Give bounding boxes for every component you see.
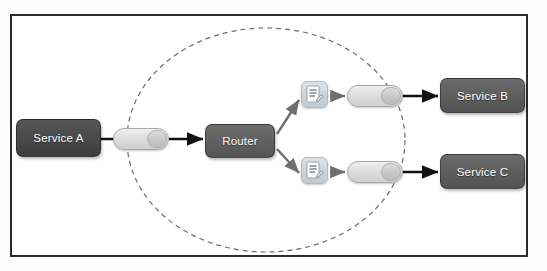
message-queue-top[interactable] (347, 85, 403, 107)
queue-message-icon (381, 87, 401, 105)
node-service-b-label: Service B (457, 90, 508, 102)
node-service-a[interactable]: Service A (16, 119, 101, 157)
node-service-c[interactable]: Service C (440, 154, 525, 189)
node-router-label: Router (222, 135, 258, 147)
message-queue-in[interactable] (113, 128, 169, 150)
node-service-a-label: Service A (33, 132, 83, 144)
message-queue-bottom[interactable] (347, 161, 403, 183)
message-transform-icon[interactable] (301, 81, 328, 108)
queue-message-icon (381, 163, 401, 181)
diagram-canvas: Service A Router Service B Service C (0, 0, 547, 271)
node-router[interactable]: Router (205, 124, 275, 158)
message-transform-icon[interactable] (301, 157, 328, 184)
node-service-b[interactable]: Service B (440, 78, 525, 113)
node-service-c-label: Service C (457, 166, 509, 178)
queue-message-icon (147, 130, 167, 148)
